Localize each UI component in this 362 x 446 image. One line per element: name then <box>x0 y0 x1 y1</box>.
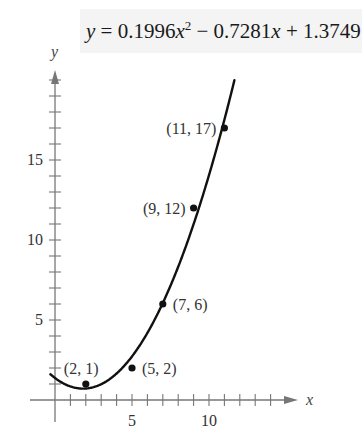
point-label: (7, 6) <box>173 296 208 314</box>
point-label: (5, 2) <box>142 360 177 378</box>
y-axis-arrow-icon <box>51 70 59 84</box>
plot-area: 51051015xy (2, 1)(5, 2)(7, 6)(9, 12)(11,… <box>0 0 362 446</box>
x-axis-label: x <box>305 391 313 408</box>
point-label: (9, 12) <box>143 200 186 218</box>
y-tick-label: 5 <box>35 311 43 328</box>
point-label: (2, 1) <box>64 360 99 378</box>
data-point <box>128 364 135 371</box>
data-points: (2, 1)(5, 2)(7, 6)(9, 12)(11, 17) <box>64 120 228 388</box>
data-point <box>159 300 166 307</box>
data-point <box>221 124 228 131</box>
data-point <box>82 380 89 387</box>
x-axis-arrow-icon <box>284 396 298 404</box>
y-tick-label: 15 <box>27 151 43 168</box>
y-axis-label: y <box>49 43 59 61</box>
point-label: (11, 17) <box>166 120 216 138</box>
y-tick-label: 10 <box>27 231 43 248</box>
x-tick-label: 10 <box>201 412 217 429</box>
data-point <box>190 204 197 211</box>
x-tick-label: 5 <box>128 412 136 429</box>
